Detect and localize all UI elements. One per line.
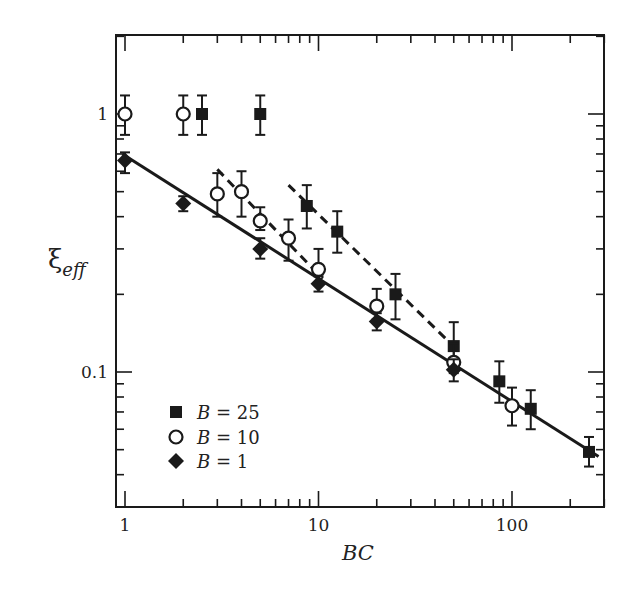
y-tick-label: 1 bbox=[97, 104, 108, 124]
data-point bbox=[117, 153, 133, 169]
data-point bbox=[493, 375, 505, 387]
legend-label-2: B = 1 bbox=[196, 451, 248, 472]
data-point bbox=[370, 300, 383, 313]
legend: B = 25B = 10B = 1 bbox=[168, 402, 260, 472]
data-point bbox=[301, 200, 313, 212]
y-tick-label: 0.1 bbox=[81, 362, 108, 382]
data-point bbox=[390, 288, 402, 300]
legend-var: B bbox=[196, 402, 210, 423]
x-tick-label: 1 bbox=[120, 515, 131, 535]
data-point bbox=[506, 399, 519, 412]
legend-eq: = 10 bbox=[210, 427, 259, 448]
series-1 bbox=[119, 95, 519, 425]
y-axis-title: ξeff bbox=[48, 244, 89, 280]
legend-var: B bbox=[196, 451, 210, 472]
data-point bbox=[196, 108, 208, 120]
x-tick-label: 10 bbox=[308, 515, 330, 535]
data-point bbox=[119, 108, 132, 121]
data-point bbox=[254, 108, 266, 120]
legend-label-1: B = 10 bbox=[196, 427, 260, 448]
y-axis-title-main: ξ bbox=[48, 244, 62, 274]
data-series bbox=[117, 95, 595, 466]
legend-label-0: B = 25 bbox=[196, 402, 260, 423]
data-point bbox=[254, 214, 267, 227]
data-point bbox=[369, 313, 385, 329]
data-point bbox=[211, 187, 224, 200]
data-point bbox=[282, 232, 295, 245]
data-point bbox=[311, 276, 327, 292]
data-point bbox=[252, 241, 268, 257]
data-point bbox=[525, 403, 537, 415]
legend-eq: = 25 bbox=[210, 402, 259, 423]
data-point bbox=[177, 108, 190, 121]
legend-var: B bbox=[196, 427, 210, 448]
plot-axes bbox=[116, 35, 604, 507]
data-point bbox=[331, 226, 343, 238]
data-point bbox=[235, 185, 248, 198]
data-point bbox=[583, 446, 595, 458]
data-point bbox=[312, 263, 325, 276]
legend-eq: = 1 bbox=[210, 451, 248, 472]
y-axis-title-sub: eff bbox=[62, 259, 89, 280]
legend-marker-2 bbox=[168, 453, 184, 469]
x-axis-title: BC bbox=[341, 541, 374, 565]
axis-ticks bbox=[116, 35, 604, 507]
legend-marker-1 bbox=[170, 431, 183, 444]
plot-frame bbox=[116, 35, 604, 507]
x-tick-label: 100 bbox=[496, 515, 528, 535]
legend-marker-0 bbox=[170, 406, 182, 418]
chart: 1101000.11 BC ξeff B = 25B = 10B = 1 bbox=[0, 0, 635, 589]
